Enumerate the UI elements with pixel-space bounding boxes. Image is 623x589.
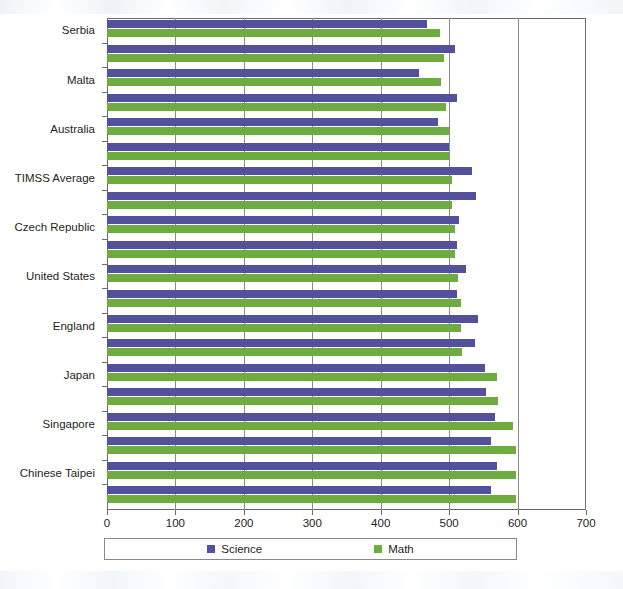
bar-math bbox=[107, 152, 449, 160]
bar-science bbox=[107, 339, 475, 347]
bar-math bbox=[107, 127, 449, 135]
bar-science bbox=[107, 388, 486, 396]
x-axis-tick bbox=[449, 510, 450, 515]
bar-group bbox=[107, 289, 586, 314]
x-axis-tick-label: 200 bbox=[234, 517, 253, 529]
legend-label: Science bbox=[221, 543, 262, 555]
bar-group bbox=[107, 387, 586, 412]
chart-legend: ScienceMath bbox=[104, 538, 517, 560]
bar-math bbox=[107, 103, 446, 111]
y-axis-label: Serbia bbox=[62, 24, 95, 36]
x-axis-tick bbox=[175, 510, 176, 515]
bar-group bbox=[107, 412, 586, 437]
y-axis-label: United States bbox=[26, 270, 95, 282]
bar-group bbox=[107, 436, 586, 461]
bar-science bbox=[107, 143, 449, 151]
timss-science-math-bar-chart: SerbiaMaltaAustraliaTIMSS AverageCzech R… bbox=[0, 0, 623, 589]
bar-math bbox=[107, 29, 440, 37]
bar-group bbox=[107, 240, 586, 265]
bar-math bbox=[107, 397, 498, 405]
y-axis-label: Czech Republic bbox=[14, 221, 95, 233]
x-axis-tick bbox=[381, 510, 382, 515]
x-axis-tick bbox=[312, 510, 313, 515]
bar-science bbox=[107, 437, 491, 445]
y-axis-label: Australia bbox=[50, 123, 95, 135]
bar-math bbox=[107, 176, 452, 184]
bar-math bbox=[107, 54, 444, 62]
x-axis-tick bbox=[586, 510, 587, 515]
bar-science bbox=[107, 216, 459, 224]
bar-group bbox=[107, 314, 586, 339]
bar-math bbox=[107, 250, 455, 258]
bar-group bbox=[107, 93, 586, 118]
bar-science bbox=[107, 192, 476, 200]
bar-science bbox=[107, 290, 457, 298]
bar-math bbox=[107, 446, 516, 454]
legend-label: Math bbox=[388, 543, 414, 555]
y-axis-label: Singapore bbox=[43, 418, 95, 430]
bar-math bbox=[107, 78, 441, 86]
bar-group bbox=[107, 19, 586, 44]
x-axis-tick bbox=[244, 510, 245, 515]
legend-swatch-icon bbox=[374, 545, 382, 553]
legend-item-math: Math bbox=[374, 543, 414, 555]
bar-science bbox=[107, 413, 495, 421]
bar-math bbox=[107, 201, 452, 209]
y-axis-category-labels: SerbiaMaltaAustraliaTIMSS AverageCzech R… bbox=[0, 18, 101, 510]
bar-science bbox=[107, 69, 419, 77]
y-axis-label: Japan bbox=[64, 369, 95, 381]
bar-group bbox=[107, 191, 586, 216]
y-axis-label: Chinese Taipei bbox=[20, 467, 95, 479]
x-axis: 0100200300400500600700 bbox=[107, 510, 586, 536]
y-axis-label: TIMSS Average bbox=[15, 172, 95, 184]
bar-math bbox=[107, 422, 513, 430]
bar-group bbox=[107, 264, 586, 289]
x-axis-tick-label: 600 bbox=[508, 517, 527, 529]
bar-math bbox=[107, 324, 461, 332]
x-axis-tick bbox=[107, 510, 108, 515]
bar-group bbox=[107, 142, 586, 167]
x-axis-tick-label: 0 bbox=[104, 517, 110, 529]
bar-science bbox=[107, 20, 427, 28]
bar-science bbox=[107, 167, 472, 175]
bar-science bbox=[107, 265, 466, 273]
bar-math bbox=[107, 299, 461, 307]
bar-group bbox=[107, 117, 586, 142]
bar-science bbox=[107, 486, 491, 494]
x-axis-tick-label: 500 bbox=[440, 517, 459, 529]
x-axis-tick bbox=[518, 510, 519, 515]
bar-math bbox=[107, 373, 497, 381]
bar-science bbox=[107, 364, 485, 372]
bar-science bbox=[107, 315, 478, 323]
x-axis-tick-label: 700 bbox=[576, 517, 595, 529]
bar-science bbox=[107, 45, 455, 53]
bar-rows bbox=[107, 18, 586, 510]
bar-science bbox=[107, 94, 457, 102]
y-axis-label: England bbox=[53, 320, 95, 332]
bar-science bbox=[107, 462, 497, 470]
bar-science bbox=[107, 241, 457, 249]
x-axis-tick-label: 300 bbox=[303, 517, 322, 529]
x-axis-tick-label: 100 bbox=[166, 517, 185, 529]
bar-math bbox=[107, 495, 516, 503]
bar-group bbox=[107, 68, 586, 93]
plot-area bbox=[107, 18, 586, 510]
legend-item-science: Science bbox=[207, 543, 262, 555]
y-axis-label: Malta bbox=[67, 74, 95, 86]
bar-group bbox=[107, 485, 586, 510]
bar-group bbox=[107, 215, 586, 240]
bar-science bbox=[107, 118, 438, 126]
bar-group bbox=[107, 363, 586, 388]
x-axis-tick-label: 400 bbox=[371, 517, 390, 529]
bar-math bbox=[107, 471, 516, 479]
bar-group bbox=[107, 461, 586, 486]
bar-group bbox=[107, 44, 586, 69]
bar-math bbox=[107, 348, 462, 356]
bar-group bbox=[107, 166, 586, 191]
legend-swatch-icon bbox=[207, 545, 215, 553]
bar-math bbox=[107, 225, 455, 233]
bar-group bbox=[107, 338, 586, 363]
bar-math bbox=[107, 274, 458, 282]
